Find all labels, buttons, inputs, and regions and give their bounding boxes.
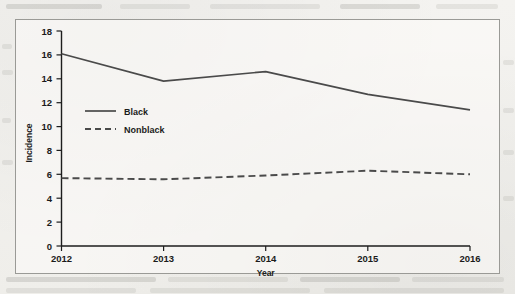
x-tick-label-2013: 2013 (153, 253, 174, 264)
y-tick-label-6: 6 (47, 169, 52, 180)
y-tick-label-10: 10 (41, 121, 52, 132)
y-tick-label-12: 12 (41, 97, 52, 108)
legend-label-black: Black (124, 107, 149, 117)
chart-legend: Black Nonblack (85, 107, 166, 135)
x-tick-label-2016: 2016 (459, 253, 480, 264)
series-line-nonblack (62, 171, 471, 180)
y-tick-label-0: 0 (47, 241, 52, 252)
x-tick-label-2014: 2014 (255, 253, 277, 264)
y-tick-label-14: 14 (41, 73, 52, 84)
x-axis-tick-labels: 2012 2013 2014 2015 2016 (51, 253, 481, 264)
x-tick-label-2015: 2015 (357, 253, 379, 264)
y-tick-label-18: 18 (41, 26, 52, 37)
y-axis-tick-labels: 18 16 14 12 10 8 6 4 2 0 (41, 26, 52, 252)
y-axis-ticks (57, 31, 62, 246)
legend-label-nonblack: Nonblack (124, 125, 166, 135)
y-tick-label-8: 8 (47, 145, 52, 156)
x-axis-title: Year (257, 268, 276, 278)
y-axis-title: Incidence (24, 123, 34, 162)
y-tick-label-4: 4 (47, 193, 53, 204)
x-tick-label-2012: 2012 (51, 253, 72, 264)
incidence-line-chart: 18 16 14 12 10 8 6 4 2 0 2012 2013 2014 … (0, 0, 515, 294)
y-tick-label-16: 16 (41, 49, 52, 60)
y-tick-label-2: 2 (47, 217, 52, 228)
x-axis-ticks (62, 246, 471, 251)
series-line-black (62, 54, 471, 110)
